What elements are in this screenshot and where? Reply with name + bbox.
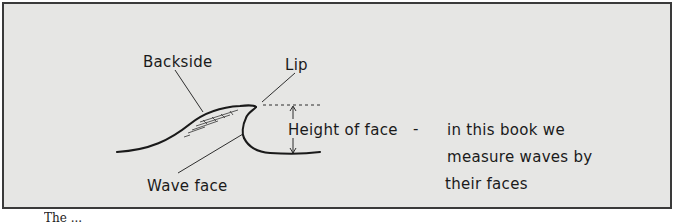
label-lip: Lip: [285, 56, 308, 74]
wave-face-leader: [178, 134, 243, 173]
note-line-1: in this book we: [447, 121, 565, 139]
label-dash: -: [413, 120, 419, 138]
label-wave-face: Wave face: [147, 177, 228, 195]
note-line-2: measure waves by: [447, 148, 593, 166]
lip-leader: [262, 73, 295, 102]
backside-leader: [175, 70, 203, 112]
figure-caption: The ...: [44, 212, 82, 223]
label-backside: Backside: [143, 53, 213, 71]
label-height-of-face: Height of face: [288, 121, 398, 139]
wave-diagram: Backside Lip Height of face - Wave face …: [0, 0, 680, 223]
note-line-3: their faces: [445, 175, 528, 193]
